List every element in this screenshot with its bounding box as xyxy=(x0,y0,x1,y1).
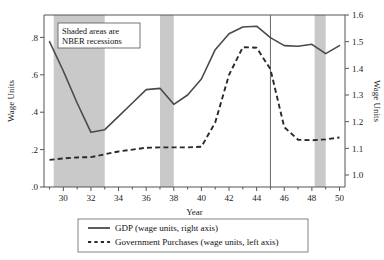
x-axis-title: Year xyxy=(186,207,203,217)
annotation-line-2: NBER recessions xyxy=(62,36,122,46)
right-axis-title: Wage Units xyxy=(372,80,382,123)
right-axis-tick-label: 1.2 xyxy=(352,117,363,127)
left-axis-tick-label: .2 xyxy=(31,145,38,155)
x-axis-tick-label: 40 xyxy=(197,193,207,203)
right-axis-tick-label: 1.0 xyxy=(352,170,364,180)
x-axis-tick-label: 38 xyxy=(169,193,179,203)
chart-canvas: .0.2.4.6.8Wage Units1.01.11.21.31.41.51.… xyxy=(0,0,384,260)
left-axis-tick-label: .0 xyxy=(31,182,38,192)
x-axis-tick-label: 48 xyxy=(307,193,317,203)
left-axis-tick-label: .8 xyxy=(31,33,38,43)
right-axis-tick-label: 1.4 xyxy=(352,64,364,74)
x-axis-tick-label: 42 xyxy=(225,193,234,203)
left-axis-tick-label: .6 xyxy=(31,70,38,80)
x-axis-tick-label: 44 xyxy=(252,193,262,203)
x-axis-tick-label: 32 xyxy=(86,193,95,203)
x-axis-tick-label: 30 xyxy=(59,193,69,203)
right-axis-tick-label: 1.1 xyxy=(352,144,363,154)
legend-label-government-purchases: Government Purchases (wage units, left a… xyxy=(115,237,278,247)
x-axis-tick-label: 50 xyxy=(335,193,345,203)
right-axis-tick-label: 1.5 xyxy=(352,37,364,47)
right-axis-tick-label: 1.3 xyxy=(352,90,364,100)
chart-figure: .0.2.4.6.8Wage Units1.01.11.21.31.41.51.… xyxy=(0,0,384,260)
annotation-line-1: Shaded areas are xyxy=(62,26,119,36)
x-axis-tick-label: 46 xyxy=(280,193,290,203)
right-axis-tick-label: 1.6 xyxy=(352,10,364,20)
x-axis-tick-label: 34 xyxy=(114,193,124,203)
x-axis-tick-label: 36 xyxy=(142,193,152,203)
left-axis-title: Wage Units xyxy=(6,80,16,123)
left-axis-tick-label: .4 xyxy=(31,107,38,117)
legend-label-gdp: GDP (wage units, right axis) xyxy=(115,223,218,233)
recession-band-3 xyxy=(315,15,326,187)
